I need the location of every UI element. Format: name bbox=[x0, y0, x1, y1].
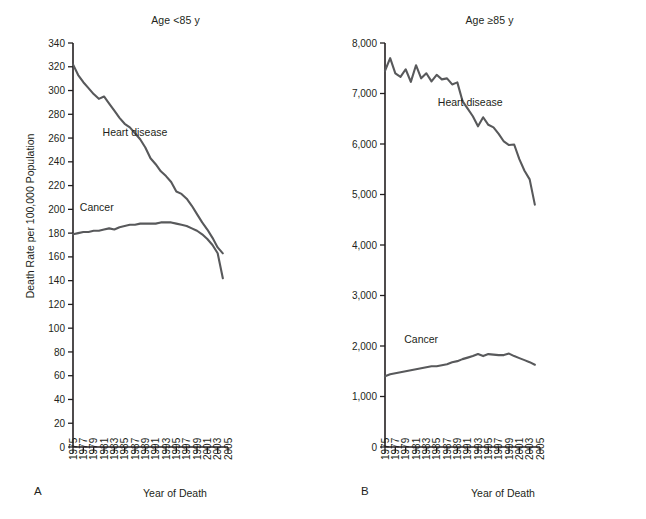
series-line-cancer bbox=[385, 354, 535, 377]
y-tick-label: 100 bbox=[48, 323, 65, 334]
x-tick-label: 2005 bbox=[223, 437, 234, 460]
series-label-cancer: Cancer bbox=[404, 333, 438, 345]
figure-two-panel-death-rates: Age <85 y Death Rate per 100,000 Populat… bbox=[0, 0, 646, 519]
y-tick-label: 300 bbox=[48, 85, 65, 96]
y-tick-label: 0 bbox=[59, 442, 65, 453]
series-label-cancer: Cancer bbox=[80, 201, 114, 213]
series-label-heart-disease: Heart disease bbox=[438, 96, 503, 108]
panel-a-letter: A bbox=[34, 485, 42, 497]
y-tick-label: 4,000 bbox=[352, 240, 377, 251]
y-tick-label: 140 bbox=[48, 275, 65, 286]
x-tick-label: 2005 bbox=[535, 437, 546, 460]
y-tick-label: 120 bbox=[48, 299, 65, 310]
y-tick-label: 8,000 bbox=[352, 38, 377, 49]
panel-a: Age <85 y Death Rate per 100,000 Populat… bbox=[0, 0, 323, 519]
y-tick-label: 160 bbox=[48, 251, 65, 262]
y-tick-label: 2,000 bbox=[352, 341, 377, 352]
y-tick-label: 0 bbox=[371, 442, 377, 453]
y-tick-label: 60 bbox=[54, 370, 66, 381]
y-tick-label: 200 bbox=[48, 204, 65, 215]
panel-a-plot: 0204060801001201401601802002202402602803… bbox=[0, 0, 323, 519]
y-tick-label: 180 bbox=[48, 228, 65, 239]
y-tick-label: 7,000 bbox=[352, 88, 377, 99]
panel-b: Age ≥85 y 01,0002,0003,0004,0005,0006,00… bbox=[323, 0, 646, 519]
y-tick-label: 3,000 bbox=[352, 290, 377, 301]
y-tick-label: 260 bbox=[48, 133, 65, 144]
y-tick-label: 20 bbox=[54, 418, 66, 429]
series-line-heart-disease bbox=[385, 58, 535, 204]
panel-b-letter: B bbox=[361, 485, 369, 497]
panel-b-x-axis-label: Year of Death bbox=[403, 487, 603, 499]
y-tick-label: 220 bbox=[48, 180, 65, 191]
y-tick-label: 40 bbox=[54, 394, 66, 405]
y-tick-label: 240 bbox=[48, 156, 65, 167]
y-tick-label: 5,000 bbox=[352, 189, 377, 200]
panel-a-x-axis-label: Year of Death bbox=[75, 487, 275, 499]
y-tick-label: 80 bbox=[54, 347, 66, 358]
y-tick-label: 320 bbox=[48, 61, 65, 72]
panel-b-plot: 01,0002,0003,0004,0005,0006,0007,0008,00… bbox=[323, 0, 646, 519]
series-line-cancer bbox=[73, 222, 223, 278]
y-tick-label: 6,000 bbox=[352, 139, 377, 150]
series-label-heart-disease: Heart disease bbox=[103, 126, 168, 138]
series-line-heart-disease bbox=[73, 64, 223, 253]
y-tick-label: 340 bbox=[48, 38, 65, 49]
y-tick-label: 280 bbox=[48, 109, 65, 120]
y-tick-label: 1,000 bbox=[352, 391, 377, 402]
